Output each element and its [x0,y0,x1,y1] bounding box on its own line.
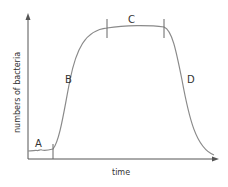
growth-curve [28,26,214,155]
growth-curve-chart: A B C D time numbers of bacteria [0,0,228,187]
x-axis-label: time [112,168,130,177]
y-axis-arrow-icon [26,13,31,20]
phase-label-a: A [35,138,42,149]
x-axis-arrow-icon [212,157,219,162]
phase-label-c: C [128,14,135,25]
phase-label-d: D [187,74,195,85]
phase-label-b: B [65,74,72,85]
y-axis-label: numbers of bacteria [13,52,22,133]
